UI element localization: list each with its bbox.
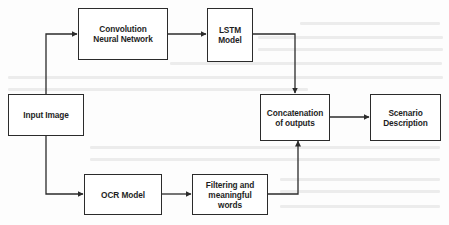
edge-filter-to-concat: [268, 141, 298, 194]
edge-input-to-ocr: [46, 136, 83, 194]
node-concatenation: Concatenation of outputs: [260, 94, 330, 141]
node-label: Convolution Neural Network: [88, 24, 158, 44]
edge-input-to-cnn: [46, 34, 77, 94]
node-label: Filtering and meaningful words: [197, 180, 263, 210]
node-label: Concatenation of outputs: [264, 108, 326, 128]
node-ocr-model: OCR Model: [84, 174, 162, 215]
node-filtering: Filtering and meaningful words: [192, 174, 268, 215]
node-input-image: Input Image: [8, 94, 84, 136]
node-label: Scenario Description: [381, 108, 431, 128]
node-label: OCR Model: [101, 190, 145, 200]
diagram-canvas: Input Image Convolution Neural Network L…: [0, 0, 449, 225]
node-label: LSTM Model: [215, 25, 245, 45]
node-label: Input Image: [23, 110, 68, 120]
node-cnn: Convolution Neural Network: [78, 8, 168, 60]
edge-lstm-to-concat: [253, 34, 295, 93]
node-lstm: LSTM Model: [207, 8, 253, 62]
node-scenario-description: Scenario Description: [370, 94, 441, 141]
